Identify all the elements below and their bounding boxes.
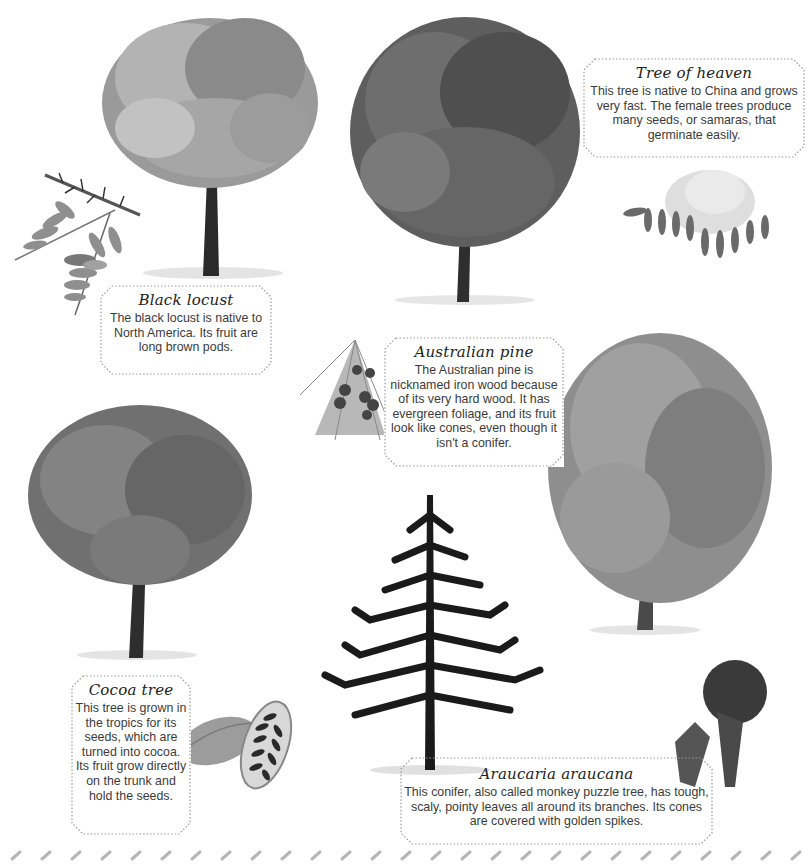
araucaria-tree-illustration [315,485,555,780]
tree-of-heaven-seeds-illustration [620,162,780,262]
araucaria-description: This conifer, also called monkey puzzle … [400,785,713,829]
cocoa-tree-title: Cocoa tree [71,681,191,699]
tree-of-heaven-tree-illustration [345,2,595,307]
australian-pine-description: The Australian pine is nicknamed iron wo… [384,363,564,451]
australian-pine-info-card: Australian pine The Australian pine is n… [384,337,564,467]
australian-pine-tree-illustration [545,318,785,638]
australian-pine-foliage-illustration [295,335,390,445]
australian-pine-title: Australian pine [384,343,564,361]
araucaria-info-card: Araucaria araucana This conifer, also ca… [400,757,713,845]
black-locust-description: The black locust is native to North Amer… [100,311,272,355]
tree-of-heaven-description: This tree is native to China and grows v… [583,84,805,142]
tree-of-heaven-title: Tree of heaven [583,64,805,82]
cocoa-tree-illustration [25,400,260,665]
cocoa-pods-illustration [178,693,293,793]
tree-of-heaven-info-card: Tree of heaven This tree is native to Ch… [583,58,805,158]
araucaria-title: Araucaria araucana [400,765,713,783]
cocoa-tree-description: This tree is grown in the tropics for it… [71,701,191,803]
cocoa-tree-info-card: Cocoa tree This tree is grown in the tro… [71,675,191,835]
black-locust-info-card: Black locust The black locust is native … [100,285,272,375]
black-locust-title: Black locust [100,291,272,309]
decorative-dash-border [0,848,810,862]
